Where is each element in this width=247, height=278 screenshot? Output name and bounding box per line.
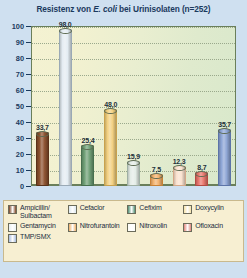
legend-color-swatch: [127, 223, 136, 232]
legend-item[interactable]: Nitroxolin: [127, 222, 183, 232]
legend-item-label: Gentamycin: [20, 222, 56, 230]
y-axis-tick-label: 70: [16, 70, 26, 79]
legend-item-label: Ofloxacin: [195, 222, 223, 230]
chart-title-container: Resistenz von E. coli bei Urinisolaten (…: [0, 4, 247, 14]
legend-item[interactable]: Ofloxacin: [183, 222, 239, 232]
chart-title-before: Resistenz von: [36, 4, 93, 14]
y-axis-tick: 70: [16, 69, 31, 79]
y-axis: 1009080706050403020100: [3, 26, 31, 186]
bar-slot[interactable]: 48,0: [99, 101, 122, 186]
y-axis-tick: 60: [16, 85, 31, 95]
bar-holder: [173, 166, 186, 186]
bar-series: 33,798,025,448,015,97,512,38,735,7: [31, 26, 236, 186]
legend-item-label: Ampicillin/Sulbactam: [20, 204, 52, 221]
legend-color-swatch: [8, 223, 17, 232]
bar-value-label: 33,7: [36, 124, 49, 131]
chart-title-after: bei Urinisolaten (n=252): [117, 4, 211, 14]
bar[interactable]: [127, 161, 140, 186]
y-axis-tick: 20: [16, 149, 31, 159]
y-axis-tick: 0: [20, 181, 31, 191]
y-axis-tick-label: 50: [16, 102, 26, 111]
legend-row: TMP/SMX: [8, 233, 239, 243]
y-axis-tick-label: 40: [16, 118, 26, 127]
bar-value-label: 25,4: [82, 137, 95, 144]
bar-holder: [127, 161, 140, 186]
bar-holder: [59, 29, 72, 186]
chart-figure: Resistenz von E. coli bei Urinisolaten (…: [0, 0, 247, 278]
bar[interactable]: [59, 29, 72, 186]
bar-slot[interactable]: 98,0: [54, 21, 77, 186]
legend-item-label: Nitrofurantoin: [80, 222, 120, 230]
legend-item-label: TMP/SMX: [20, 233, 51, 241]
legend-item-label: Cefaclor: [80, 204, 105, 212]
bar-holder: [104, 109, 117, 186]
bar-value-label: 15,9: [127, 153, 140, 160]
bar-value-label: 48,0: [104, 101, 117, 108]
bar[interactable]: [36, 132, 49, 186]
bar-value-label: 8,7: [197, 164, 206, 171]
legend-color-swatch: [8, 234, 17, 243]
legend-item[interactable]: Doxycylin: [183, 204, 239, 214]
legend-item-label: Doxycylin: [195, 204, 224, 212]
y-axis-tick-label: 100: [12, 22, 26, 31]
y-axis-tick: 90: [16, 37, 31, 47]
bar-holder: [218, 129, 231, 186]
chart-title-species: E. coli: [93, 4, 117, 14]
bar-holder: [150, 174, 163, 186]
legend-color-swatch: [8, 205, 17, 214]
bar-value-label: 35,7: [218, 121, 231, 128]
y-axis-tick: 10: [16, 165, 31, 175]
bar[interactable]: [81, 145, 94, 186]
y-axis-tick-label: 20: [16, 150, 26, 159]
chart-plot-frame: 1009080706050403020100 33,798,025,448,01…: [3, 20, 244, 200]
bar-holder: [36, 132, 49, 186]
bar-value-label: 12,3: [173, 158, 186, 165]
y-axis-tick: 40: [16, 117, 31, 127]
bar[interactable]: [218, 129, 231, 186]
legend-item[interactable]: Ampicillin/Sulbactam: [8, 204, 68, 221]
y-axis-tick-label: 10: [16, 166, 26, 175]
legend-color-swatch: [183, 205, 192, 214]
bar-slot[interactable]: 12,3: [168, 158, 191, 186]
chart-title: Resistenz von E. coli bei Urinisolaten (…: [0, 4, 247, 14]
bar-slot[interactable]: 15,9: [122, 153, 145, 186]
bar[interactable]: [195, 172, 208, 186]
legend-item[interactable]: TMP/SMX: [8, 233, 70, 243]
legend-row: GentamycinNitrofurantoinNitroxolinOfloxa…: [8, 222, 239, 232]
y-axis-tick: 30: [16, 133, 31, 143]
legend-color-swatch: [183, 223, 192, 232]
bar-value-label: 98,0: [59, 21, 72, 28]
legend-row: Ampicillin/SulbactamCefaclorCefiximDoxyc…: [8, 204, 239, 221]
bar[interactable]: [173, 166, 186, 186]
bar-slot[interactable]: 7,5: [145, 166, 168, 186]
legend-item[interactable]: Cefaclor: [68, 204, 128, 214]
bar-slot[interactable]: 35,7: [213, 121, 236, 186]
bar-value-label: 7,5: [152, 166, 161, 173]
bar[interactable]: [104, 109, 117, 186]
y-axis-tick-label: 30: [16, 134, 26, 143]
y-axis-tick: 100: [12, 21, 31, 31]
bar[interactable]: [150, 174, 163, 186]
bar-slot[interactable]: 25,4: [77, 137, 100, 186]
legend-color-swatch: [127, 205, 136, 214]
y-axis-tick: 50: [16, 101, 31, 111]
y-axis-tick: 80: [16, 53, 31, 63]
bar-holder: [81, 145, 94, 186]
legend-color-swatch: [68, 205, 77, 214]
chart-legend: Ampicillin/SulbactamCefaclorCefiximDoxyc…: [3, 200, 244, 262]
y-axis-tick-label: 90: [16, 38, 26, 47]
bar-slot[interactable]: 33,7: [31, 124, 54, 186]
legend-item[interactable]: Cefixim: [127, 204, 183, 214]
y-axis-tick-label: 80: [16, 54, 26, 63]
legend-item-label: Cefixim: [139, 204, 161, 212]
y-axis-tick-label: 60: [16, 86, 26, 95]
bar-holder: [195, 172, 208, 186]
legend-item[interactable]: Gentamycin: [8, 222, 68, 232]
legend-color-swatch: [68, 223, 77, 232]
legend-item-label: Nitroxolin: [139, 222, 167, 230]
bar-slot[interactable]: 8,7: [190, 164, 213, 186]
legend-item[interactable]: Nitrofurantoin: [68, 222, 128, 232]
